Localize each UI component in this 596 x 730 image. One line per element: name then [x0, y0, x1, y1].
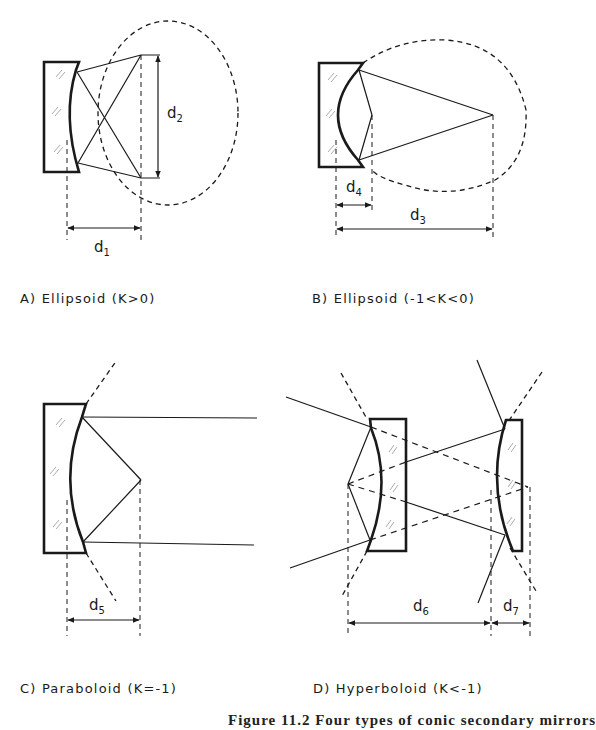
panel-b-label: B) Ellipsoid (-1<K<0)	[312, 291, 475, 306]
panel-c-diagram	[44, 360, 257, 636]
d4-label: d4	[346, 178, 362, 198]
d3-label: d3	[410, 206, 426, 226]
panel-d-label: D) Hyperboloid (K<-1)	[313, 681, 483, 696]
mirror-body	[44, 404, 86, 553]
mirror-body	[44, 62, 79, 172]
ray-paths	[82, 417, 257, 545]
d7-label: d7	[503, 597, 519, 617]
ray-paths	[359, 70, 493, 160]
parabola-outline-upper	[86, 360, 117, 404]
d6-label: d6	[413, 597, 429, 617]
primary-mirror-body	[367, 419, 406, 551]
mirror-body	[319, 63, 363, 167]
ellipse-outline	[363, 40, 526, 192]
panel-a-label: A) Ellipsoid (K>0)	[20, 291, 156, 306]
d1-label: d1	[94, 238, 110, 258]
panel-a-diagram	[44, 21, 238, 240]
d2-label: d2	[167, 104, 183, 124]
ray-paths	[77, 55, 141, 178]
panel-c-label: C) Paraboloid (K=-1)	[20, 681, 177, 696]
parabola-outline-lower	[86, 553, 116, 601]
dimension-guides	[67, 55, 141, 240]
panel-d-diagram	[286, 360, 542, 636]
figure-caption: Figure 11.2 Four types of conic secondar…	[228, 712, 596, 729]
d5-label: d5	[89, 596, 105, 616]
